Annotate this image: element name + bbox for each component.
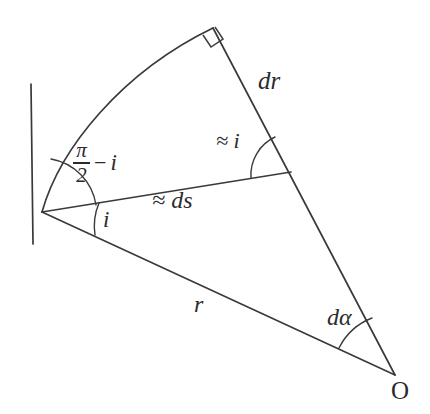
label-approx-i: ≈ i bbox=[216, 130, 240, 152]
minus-operator: − bbox=[93, 152, 107, 174]
label-i: i bbox=[103, 208, 109, 231]
variable-i: i bbox=[110, 151, 116, 174]
diagram-canvas bbox=[0, 0, 430, 414]
label-approx-ds: ≈ ds bbox=[152, 188, 193, 212]
i-arc bbox=[94, 203, 99, 235]
tangent-line bbox=[31, 84, 33, 244]
curve-arc bbox=[42, 28, 213, 212]
label-dr: dr bbox=[258, 68, 280, 93]
label-origin-o: O bbox=[391, 378, 409, 403]
label-d-alpha: dα bbox=[327, 305, 352, 329]
right-angle-marker bbox=[203, 27, 223, 47]
label-r: r bbox=[194, 292, 203, 316]
fraction-pi-over-2: π 2 bbox=[73, 140, 90, 186]
r-segment bbox=[42, 212, 395, 375]
approx-i-arc bbox=[251, 137, 275, 178]
fraction-denominator-2: 2 bbox=[74, 164, 89, 186]
dr-segment bbox=[213, 28, 395, 375]
fraction-numerator-pi: π bbox=[74, 140, 89, 162]
polar-differential-diagram: dr ≈ i ≈ ds i r dα O π 2 − i bbox=[0, 0, 430, 414]
label-pi-half-minus-i: π 2 − i bbox=[73, 140, 117, 186]
